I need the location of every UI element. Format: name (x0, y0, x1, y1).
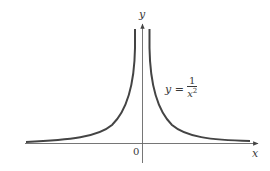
equation-denominator: x2 (187, 87, 197, 99)
equation-label: y = 1 x2 (165, 76, 225, 104)
curve-left-branch (26, 29, 135, 142)
x-axis-label: x (252, 148, 258, 159)
equation-lhs: y = (165, 84, 184, 95)
equation-fraction: 1 x2 (187, 76, 197, 99)
equation-exponent: 2 (193, 87, 197, 95)
y-axis-label: y (139, 9, 145, 20)
equation-numerator: 1 (187, 76, 197, 87)
origin-label: 0 (133, 147, 139, 157)
